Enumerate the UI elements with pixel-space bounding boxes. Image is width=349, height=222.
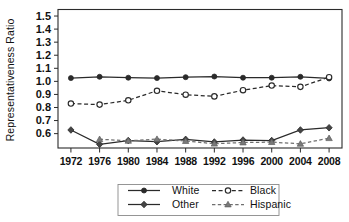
data-point-white bbox=[126, 75, 131, 80]
data-point-black bbox=[68, 101, 73, 106]
y-tick-label: 1.0 bbox=[36, 75, 51, 87]
data-point-white bbox=[154, 76, 159, 81]
y-tick-label: 0.9 bbox=[36, 88, 51, 100]
data-point-black bbox=[97, 102, 102, 107]
chart-legend: WhiteBlackOtherHispanic bbox=[118, 184, 291, 216]
legend-label: Other bbox=[172, 198, 199, 210]
data-point-black bbox=[212, 94, 217, 99]
y-tick-label: 0.8 bbox=[36, 101, 51, 113]
x-tick-label: 1976 bbox=[88, 155, 111, 167]
x-tick-label: 1972 bbox=[60, 155, 83, 167]
x-tick-label: 1992 bbox=[203, 155, 226, 167]
chart-figure: Representativeness Ratio 1.51.41.31.21.1… bbox=[0, 0, 349, 222]
data-point-white bbox=[212, 74, 217, 79]
x-tick-label: 1980 bbox=[117, 155, 140, 167]
y-tick-label: 1.1 bbox=[36, 62, 51, 74]
data-point-white bbox=[97, 74, 102, 79]
legend-label: Black bbox=[250, 184, 277, 196]
data-point-white bbox=[241, 75, 246, 80]
legend-swatch-marker bbox=[142, 188, 147, 193]
data-point-black bbox=[298, 84, 303, 89]
x-tick-label: 1988 bbox=[174, 155, 197, 167]
y-axis-title: Representativeness Ratio bbox=[4, 19, 16, 142]
data-point-black bbox=[126, 98, 131, 103]
data-point-white bbox=[183, 75, 188, 80]
data-point-white bbox=[68, 76, 73, 81]
x-tick-label: 1996 bbox=[232, 155, 255, 167]
data-point-white bbox=[298, 74, 303, 79]
x-tick-label: 2008 bbox=[318, 155, 341, 167]
legend-label: Hispanic bbox=[250, 198, 291, 210]
x-tick-label: 2004 bbox=[289, 155, 312, 167]
x-tick-label: 1984 bbox=[146, 155, 169, 167]
y-axis-title-text: Representativeness Ratio bbox=[4, 19, 16, 142]
legend-label: White bbox=[172, 184, 199, 196]
data-point-black bbox=[326, 74, 331, 79]
representativeness-ratio-line-chart: Representativeness Ratio 1.51.41.31.21.1… bbox=[0, 0, 349, 222]
y-tick-label: 1.4 bbox=[36, 23, 52, 35]
y-tick-label: 1.2 bbox=[36, 49, 51, 61]
legend-swatch-marker bbox=[225, 188, 230, 193]
y-tick-label: 1.5 bbox=[36, 10, 51, 22]
data-point-black bbox=[183, 92, 188, 97]
data-point-black bbox=[269, 83, 274, 88]
data-point-black bbox=[240, 88, 245, 93]
x-tick-label: 2000 bbox=[260, 155, 283, 167]
y-tick-label: 0.6 bbox=[36, 127, 51, 139]
y-tick-label: 1.3 bbox=[36, 36, 51, 48]
y-tick-label: 0.7 bbox=[36, 114, 51, 126]
data-point-white bbox=[269, 75, 274, 80]
data-point-black bbox=[154, 88, 159, 93]
